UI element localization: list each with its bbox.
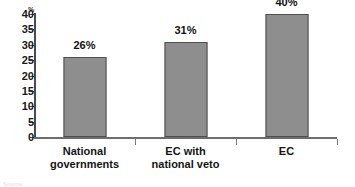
y-axis-tick-label: 15 [10, 86, 34, 97]
y-axis-tick-label: 5 [10, 117, 34, 128]
y-axis-tick-label: 40 [10, 9, 34, 20]
bar-value-label: 31% [174, 25, 196, 36]
bar-group: 26% [34, 14, 135, 137]
x-axis-category-labels: National governmentsEC with national vet… [34, 145, 337, 185]
bar-chart: % 0510152025303540 26%31%40% National go… [0, 0, 355, 187]
x-axis-separator [337, 139, 338, 145]
bar [164, 42, 207, 137]
bar-value-label: 40% [275, 0, 297, 8]
category-label: EC [236, 145, 337, 158]
y-axis-tick-label: 25 [10, 55, 34, 66]
bar-value-label: 26% [73, 40, 95, 51]
bar-group: 40% [236, 14, 337, 137]
x-axis-line [34, 137, 337, 139]
bar [265, 14, 308, 137]
y-axis-tick-label: 10 [10, 101, 34, 112]
y-axis-tick-label: 30 [10, 40, 34, 51]
category-label: EC with national veto [135, 145, 236, 171]
bar-group: 31% [135, 14, 236, 137]
bar [63, 57, 106, 137]
source-caption: Source: [3, 181, 24, 187]
bars-layer: 26%31%40% [34, 14, 337, 137]
y-axis-tick-label: 0 [10, 132, 34, 143]
category-label: National governments [34, 145, 135, 171]
y-axis-ticks: 0510152025303540 [0, 0, 34, 187]
y-axis-tick-label: 35 [10, 24, 34, 35]
y-axis-tick-label: 20 [10, 71, 34, 82]
